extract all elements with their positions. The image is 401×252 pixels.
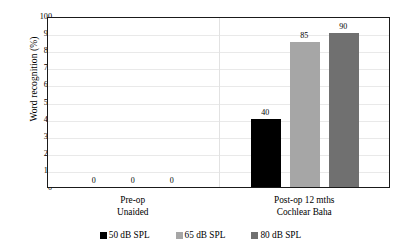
legend-item: 65 dB SPL [176, 230, 226, 240]
chart-legend: 50 dB SPL65 dB SPL80 dB SPL [0, 230, 401, 240]
category-label-line2: Cochlear Baha [219, 207, 389, 219]
category-label-line2: Unaided [48, 207, 218, 219]
bar-value-label: 0 [121, 177, 145, 185]
bar-value-label: 40 [245, 109, 285, 117]
x-axis-category-label: Post-op 12 mthsCochlear Baha [219, 195, 389, 218]
plot-area [47, 17, 390, 188]
bar [290, 42, 320, 187]
bar [251, 119, 281, 187]
category-label-line1: Post-op 12 mths [219, 195, 389, 207]
bar-chart: Word recognition (%) 1009080706050403020… [0, 0, 401, 252]
legend-label: 50 dB SPL [109, 230, 150, 240]
legend-swatch-icon [100, 232, 107, 239]
legend-label: 80 dB SPL [260, 230, 301, 240]
legend-label: 65 dB SPL [185, 230, 226, 240]
bar [329, 33, 359, 187]
legend-swatch-icon [251, 232, 258, 239]
bar-value-label: 90 [323, 23, 363, 31]
bar-value-label: 0 [160, 177, 184, 185]
category-divider [219, 18, 220, 187]
x-axis-category-label: Pre-opUnaided [48, 195, 218, 218]
legend-swatch-icon [176, 232, 183, 239]
legend-item: 80 dB SPL [251, 230, 301, 240]
category-label-line1: Pre-op [48, 195, 218, 207]
legend-item: 50 dB SPL [100, 230, 150, 240]
bar-value-label: 0 [82, 177, 106, 185]
bar-value-label: 85 [284, 32, 324, 40]
